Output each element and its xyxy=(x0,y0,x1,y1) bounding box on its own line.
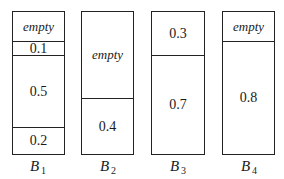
segment-empty: empty xyxy=(223,12,274,41)
segment-item: 0.4 xyxy=(82,98,133,154)
bin-b2: empty 0.4 xyxy=(81,11,134,155)
segment-item: 0.7 xyxy=(152,55,204,154)
bin-label-b2: B2 xyxy=(81,158,135,176)
bin-label-b3: B3 xyxy=(151,158,205,176)
bin-b3: 0.3 0.7 xyxy=(151,11,205,155)
bin-label-b4: B4 xyxy=(222,158,276,176)
bin-b1: empty 0.1 0.5 0.2 xyxy=(12,11,65,155)
segment-item: 0.8 xyxy=(223,41,274,154)
segment-item: 0.3 xyxy=(152,12,204,55)
bin-label-b1: B1 xyxy=(11,158,65,176)
segment-item: 0.1 xyxy=(13,41,64,55)
bin-b4: empty 0.8 xyxy=(222,11,275,155)
segment-empty: empty xyxy=(82,12,133,98)
segment-item: 0.5 xyxy=(13,55,64,127)
segment-empty: empty xyxy=(13,12,64,41)
segment-item: 0.2 xyxy=(13,127,64,154)
